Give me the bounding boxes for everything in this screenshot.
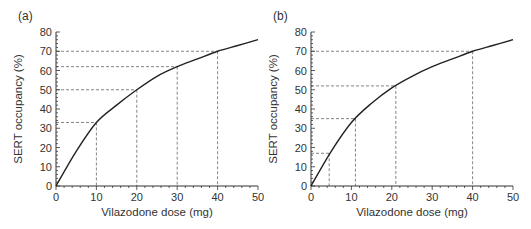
x-axis-title: Vilazodone dose (mg): [101, 206, 213, 218]
y-tick-label: 40: [295, 103, 307, 115]
x-tick-label: 10: [90, 191, 102, 203]
y-tick-label: 50: [295, 84, 307, 96]
y-tick-label: 10: [40, 161, 52, 173]
x-tick-label: 40: [211, 191, 223, 203]
chart-panel-a: (a)0102030405001020304050607080Vilazodon…: [12, 9, 264, 218]
x-tick-label: 10: [345, 191, 357, 203]
x-tick-label: 50: [252, 191, 264, 203]
panel-label: (a): [18, 9, 33, 23]
y-tick-label: 10: [295, 161, 307, 173]
y-tick-label: 60: [40, 65, 52, 77]
chart-panel-b: (b)0102030405001020304050607080Vilazodon…: [267, 9, 519, 218]
y-tick-label: 20: [40, 142, 52, 154]
x-tick-label: 40: [466, 191, 478, 203]
y-tick-label: 80: [40, 26, 52, 38]
y-tick-label: 60: [295, 65, 307, 77]
x-tick-label: 20: [131, 191, 143, 203]
y-tick-label: 30: [295, 122, 307, 134]
x-tick-label: 50: [507, 191, 519, 203]
x-axis-title: Vilazodone dose (mg): [356, 206, 468, 218]
x-tick-label: 20: [386, 191, 398, 203]
y-tick-label: 80: [295, 26, 307, 38]
y-axis-title: SERT occupancy (%): [267, 54, 279, 164]
y-tick-label: 30: [40, 122, 52, 134]
occupancy-curve: [311, 40, 513, 186]
x-tick-label: 0: [53, 191, 59, 203]
y-tick-label: 0: [46, 180, 52, 192]
panel-label: (b): [273, 9, 288, 23]
y-tick-label: 50: [40, 84, 52, 96]
y-axis-title: SERT occupancy (%): [12, 54, 24, 164]
y-tick-label: 40: [40, 103, 52, 115]
y-tick-label: 70: [40, 45, 52, 57]
figure: (a)0102030405001020304050607080Vilazodon…: [0, 0, 531, 229]
y-tick-label: 0: [301, 180, 307, 192]
x-tick-label: 30: [426, 191, 438, 203]
x-tick-label: 0: [308, 191, 314, 203]
occupancy-curve: [56, 40, 258, 186]
y-tick-label: 20: [295, 142, 307, 154]
x-tick-label: 30: [171, 191, 183, 203]
y-tick-label: 70: [295, 45, 307, 57]
